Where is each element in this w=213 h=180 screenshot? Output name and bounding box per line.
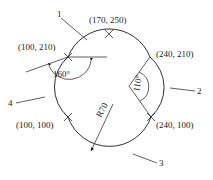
- leader-3: [133, 154, 157, 163]
- coord-label-100-210: (100, 210): [18, 42, 56, 52]
- angle-110-label: 110°: [131, 74, 144, 93]
- arc-4-label: 4: [8, 98, 13, 108]
- coord-label-240-210: (240, 210): [156, 49, 194, 59]
- arc-3-label: 3: [159, 158, 164, 168]
- angle-160-label: 160°: [53, 69, 71, 79]
- leader-1: [61, 18, 87, 40]
- arc-3: [68, 117, 151, 146]
- leader-2: [170, 88, 195, 91]
- point-marker-170-250: [105, 30, 113, 38]
- leader-4: [16, 97, 45, 103]
- arc-profile-diagram: 160° 110° R70 (100, 210) (170, 250) (240…: [0, 0, 213, 180]
- coord-label-240-100: (240, 100): [156, 120, 194, 130]
- coord-label-170-250: (170, 250): [89, 15, 127, 25]
- arc-2-label: 2: [197, 86, 202, 96]
- arc-1: [68, 29, 150, 57]
- arc-1-label: 1: [57, 9, 62, 19]
- coord-label-100-100: (100, 100): [16, 120, 54, 130]
- point-marker-100-100: [64, 113, 72, 121]
- arc-2: [150, 57, 164, 117]
- arc-4: [54, 57, 68, 117]
